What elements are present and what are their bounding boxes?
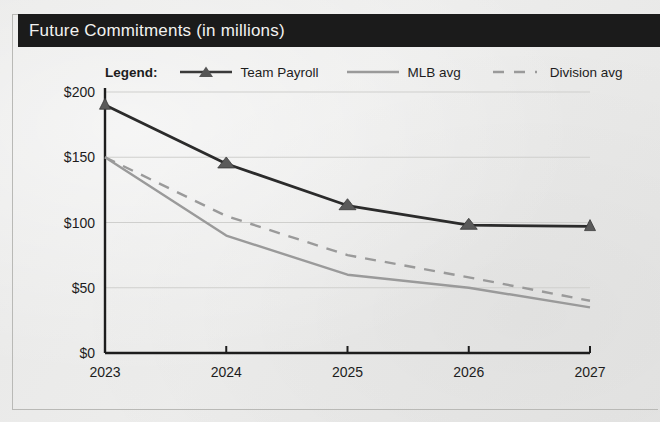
y-tick-label: $150 (64, 149, 95, 165)
series-team-payroll (100, 98, 596, 230)
y-tick-label: $200 (64, 84, 95, 100)
x-tick-label: 2023 (89, 364, 120, 380)
data-point-marker (100, 98, 111, 109)
x-tick-label: 2026 (453, 364, 484, 380)
series-division-avg (105, 157, 590, 301)
chart-figure: Future Commitments (in millions) Legend:… (0, 0, 660, 422)
axis-lines (105, 88, 590, 353)
y-tick-label: $100 (64, 215, 95, 231)
x-tick-label: 2025 (332, 364, 363, 380)
data-series-layer (100, 98, 596, 307)
series-mlb-avg (105, 157, 590, 307)
x-tick-label: 2024 (211, 364, 242, 380)
chart-plot-area: $0$50$100$150$200 20232024202520262027 (0, 0, 660, 422)
x-tick-label: 2027 (574, 364, 605, 380)
data-point-marker (218, 157, 235, 168)
y-tick-label: $50 (72, 280, 96, 296)
x-axis-tick-labels: 20232024202520262027 (89, 364, 605, 380)
y-tick-label: $0 (79, 345, 95, 361)
gridlines (105, 92, 590, 288)
y-axis-tick-labels: $0$50$100$150$200 (64, 84, 95, 361)
